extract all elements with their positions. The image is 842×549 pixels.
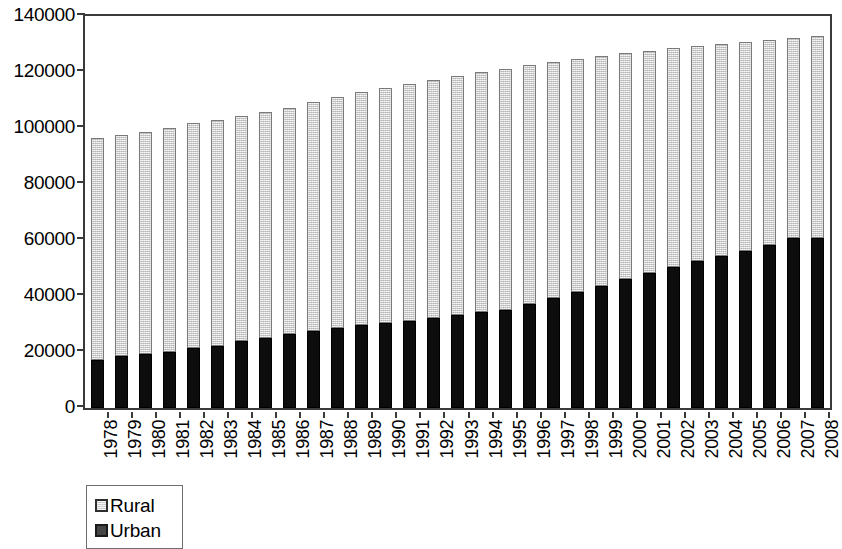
bar-1989 [355, 92, 368, 408]
bar-segment-urban [403, 321, 416, 408]
bar-1994 [475, 72, 488, 408]
bar-segment-urban [475, 312, 488, 408]
bar-segment-urban [331, 328, 344, 408]
x-axis-tick-mark [708, 412, 710, 418]
bar-segment-urban [235, 341, 248, 408]
bar-segment-rural [739, 42, 752, 251]
bar-1986 [283, 108, 296, 408]
y-axis-tick-label: 60000 [24, 229, 75, 248]
x-axis-tick-label: 2004 [727, 420, 745, 458]
bar-2003 [691, 46, 704, 408]
bar-1993 [451, 76, 464, 408]
bar-1997 [547, 62, 560, 408]
bar-segment-urban [187, 348, 200, 408]
bar-segment-urban [547, 298, 560, 408]
x-axis-tick-mark [347, 412, 349, 418]
x-axis-tick-label: 1998 [583, 420, 601, 458]
bar-segment-rural [763, 40, 776, 245]
y-axis-tick-label: 140000 [13, 5, 75, 24]
bar-segment-urban [91, 360, 104, 408]
bar-segment-urban [427, 318, 440, 408]
bar-segment-urban [739, 251, 752, 408]
x-axis-tick-label: 1993 [463, 420, 481, 458]
x-axis-tick-mark [468, 412, 470, 418]
x-axis-tick-label: 1999 [607, 420, 625, 458]
x-axis-tick-label: 1997 [559, 420, 577, 458]
y-axis-tick-label: 80000 [24, 173, 75, 192]
x-axis-tick-mark [131, 412, 133, 418]
bar-segment-urban [715, 256, 728, 408]
bar-segment-rural [499, 69, 512, 310]
legend-label-urban: Urban [110, 521, 161, 540]
bar-2000 [619, 53, 632, 408]
x-axis-tick-mark [227, 412, 229, 418]
bar-1980 [139, 132, 152, 408]
bar-segment-urban [379, 323, 392, 408]
x-axis-tick-label: 1983 [222, 420, 240, 458]
bar-1996 [523, 65, 536, 408]
plot-area [83, 14, 832, 410]
bar-segment-urban [499, 310, 512, 408]
bar-segment-rural [355, 92, 368, 325]
y-axis-tick-label: 20000 [24, 341, 75, 360]
bar-2005 [739, 42, 752, 408]
y-axis: 020000400006000080000100000120000140000 [0, 0, 75, 549]
bar-segment-urban [523, 304, 536, 408]
bar-segment-urban [283, 334, 296, 408]
bar-segment-rural [307, 102, 320, 331]
bar-1987 [307, 102, 320, 408]
x-axis-tick-mark [612, 412, 614, 418]
bar-segment-urban [259, 338, 272, 408]
x-axis-tick-label: 1996 [535, 420, 553, 458]
x-axis-tick-label: 1979 [126, 420, 144, 458]
bar-1978 [91, 138, 104, 408]
y-axis-tick-label: 0 [65, 397, 75, 416]
bar-segment-rural [427, 80, 440, 318]
bar-segment-rural [283, 108, 296, 334]
x-axis-tick-label: 2003 [703, 420, 721, 458]
bar-segment-rural [595, 56, 608, 286]
bar-segment-rural [115, 135, 128, 356]
bar-2004 [715, 44, 728, 408]
x-axis-tick-label: 1987 [318, 420, 336, 458]
bar-1985 [259, 112, 272, 408]
x-axis-tick-label: 1980 [150, 420, 168, 458]
bar-segment-urban [811, 238, 824, 408]
legend-swatch-rural-icon [95, 499, 108, 512]
x-axis-tick-mark [516, 412, 518, 418]
bar-1999 [595, 56, 608, 408]
bar-segment-rural [811, 36, 824, 238]
bar-segment-urban [355, 325, 368, 408]
bar-2001 [643, 51, 656, 408]
bar-1991 [403, 84, 416, 408]
y-axis-tick-label: 40000 [24, 285, 75, 304]
x-axis-tick-label: 2005 [751, 420, 769, 458]
x-axis-tick-mark [371, 412, 373, 418]
x-axis-tick-mark [636, 412, 638, 418]
bar-1981 [163, 128, 176, 408]
x-axis-tick-mark [299, 412, 301, 418]
x-axis-tick-mark [155, 412, 157, 418]
x-axis-tick-mark [107, 412, 109, 418]
x-axis-tick-label: 1990 [390, 420, 408, 458]
x-axis-tick-label: 1986 [294, 420, 312, 458]
x-axis-tick-label: 1981 [174, 420, 192, 458]
bar-segment-rural [187, 123, 200, 347]
bar-1984 [235, 116, 248, 408]
bar-segment-urban [307, 331, 320, 408]
x-axis-tick-mark [203, 412, 205, 418]
bar-segment-urban [643, 273, 656, 408]
bar-segment-urban [667, 267, 680, 408]
bar-segment-rural [403, 84, 416, 321]
x-axis-tick-label: 1982 [198, 420, 216, 458]
bar-1995 [499, 69, 512, 408]
bar-segment-urban [451, 315, 464, 408]
x-axis-tick-label: 2008 [823, 420, 841, 458]
bar-segment-urban [163, 352, 176, 408]
chart-legend: Rural Urban [86, 485, 183, 549]
x-axis-tick-label: 2006 [775, 420, 793, 458]
bar-segment-rural [619, 53, 632, 279]
bar-segment-rural [523, 65, 536, 303]
x-axis-tick-mark [540, 412, 542, 418]
